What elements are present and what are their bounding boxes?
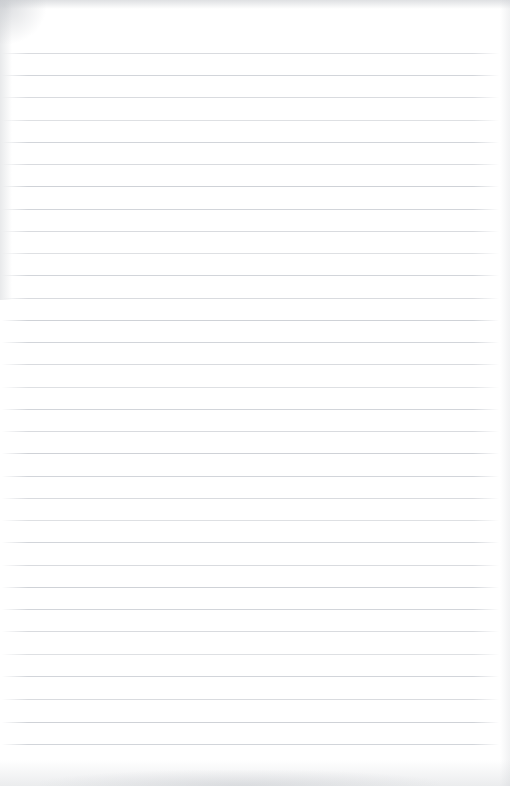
scanned-page [0, 0, 510, 786]
ruled-line [2, 142, 499, 143]
ruled-line [2, 631, 499, 632]
ruled-line [2, 120, 499, 121]
ruled-line [2, 320, 499, 321]
ruled-lines-group [0, 0, 510, 786]
ruled-line [2, 722, 499, 723]
ruled-line [2, 431, 499, 432]
ruled-line [2, 609, 499, 610]
ruled-line [2, 275, 499, 276]
ruled-line [2, 453, 499, 454]
ruled-line [2, 565, 499, 566]
ruled-line [2, 744, 499, 745]
ruled-line [2, 699, 499, 700]
ruled-line [2, 164, 499, 165]
ruled-line [2, 298, 499, 299]
ruled-line [2, 253, 499, 254]
ruled-line [2, 209, 499, 210]
ruled-line [2, 186, 499, 187]
ruled-line [2, 476, 499, 477]
ruled-line [2, 97, 499, 98]
ruled-line [2, 542, 499, 543]
ruled-line [2, 520, 499, 521]
ruled-line [2, 409, 499, 410]
ruled-line [2, 53, 499, 54]
ruled-line [2, 75, 499, 76]
ruled-line [2, 654, 499, 655]
ruled-line [2, 387, 499, 388]
ruled-line [2, 587, 499, 588]
ruled-line [2, 498, 499, 499]
ruled-line [2, 676, 499, 677]
ruled-line [2, 342, 499, 343]
ruled-line [2, 231, 499, 232]
ruled-line [2, 364, 499, 365]
